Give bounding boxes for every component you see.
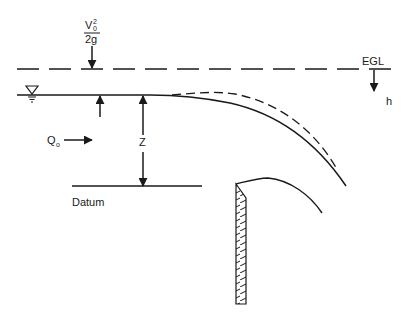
- head-label: h: [386, 95, 392, 107]
- velocity-head-label: V 2 0 2g: [84, 18, 100, 45]
- svg-text:o: o: [56, 141, 60, 148]
- discharge-label: Q o: [47, 134, 60, 148]
- weir-plate: [236, 184, 246, 304]
- lower-nappe: [236, 178, 322, 213]
- svg-text:Q: Q: [47, 134, 56, 146]
- egl-label: EGL: [362, 55, 384, 67]
- svg-text:2g: 2g: [85, 33, 97, 45]
- weir-diagram: EGL h V 2 0 2g Z Q o Datum: [0, 0, 411, 317]
- upper-nappe-dashed: [172, 92, 338, 171]
- svg-text:V: V: [85, 19, 93, 31]
- water-level-symbol-icon: [26, 86, 38, 102]
- svg-text:2: 2: [93, 18, 97, 25]
- elevation-label: Z: [139, 136, 146, 148]
- datum-label: Datum: [72, 196, 104, 208]
- svg-text:0: 0: [93, 25, 97, 32]
